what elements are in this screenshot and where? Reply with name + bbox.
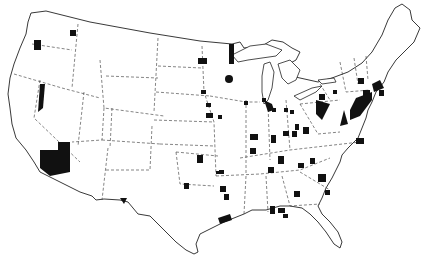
us-map-svg <box>0 0 430 263</box>
us-outline <box>8 4 420 254</box>
us-map <box>0 0 430 263</box>
